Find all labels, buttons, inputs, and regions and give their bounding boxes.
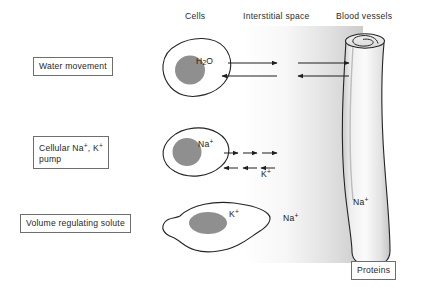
annotation-potassium-in-cell: K+ [229, 208, 239, 219]
column-header-blood-vessels: Blood vessels [336, 11, 392, 21]
annotation-sodium-vessel: Na+ [353, 196, 368, 207]
annotation-potassium-influx: K+ [261, 168, 271, 179]
label-box-volume-regulating-solute: Volume regulating solute [20, 214, 131, 233]
label-box-cellular-na-k-pump: Cellular Na+, K+pump [33, 136, 109, 169]
figure-canvas: Cells Interstitial space Blood vessels W… [0, 0, 421, 287]
column-header-cells: Cells [185, 11, 205, 21]
annotation-water-molecule: H2O [196, 56, 213, 66]
annotation-sodium-interstitial: Na+ [283, 212, 298, 223]
label-box-proteins: Proteins [351, 261, 396, 280]
cell-water [163, 38, 231, 96]
cell-solute-nucleus [189, 212, 227, 234]
annotation-sodium-in-cell: Na+ [198, 138, 213, 149]
cell-pump [161, 125, 232, 180]
column-header-interstitial-space: Interstitial space [243, 11, 310, 21]
label-box-water-movement: Water movement [33, 57, 113, 76]
